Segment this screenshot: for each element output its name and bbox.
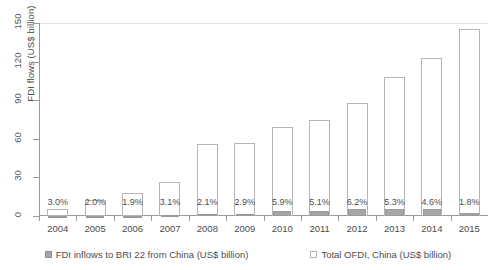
bar-bri-inflows	[161, 215, 179, 217]
y-tick-mark	[33, 62, 39, 63]
bar-bri-inflows	[86, 216, 104, 218]
legend-swatch-gray-icon	[45, 251, 52, 258]
x-tick-mark	[76, 216, 77, 221]
x-tick-mark	[338, 216, 339, 221]
x-tick-mark	[376, 216, 377, 221]
y-tick-label: 120	[12, 45, 23, 75]
bar-bri-inflows	[48, 216, 66, 218]
legend-swatch-white-icon	[310, 251, 317, 258]
chart-figure: FDI flows (US$ billion) 0306090120150 20…	[0, 0, 496, 270]
y-tick-label: 90	[12, 84, 23, 114]
bar-bri-inflows	[423, 209, 441, 216]
bar-bri-inflows	[460, 213, 478, 216]
x-tick-mark	[413, 216, 414, 221]
bar-bri-inflows	[273, 211, 291, 216]
y-tick-mark	[33, 139, 39, 140]
chart-legend: FDI inflows to BRI 22 from China (US$ bi…	[0, 249, 496, 260]
bar-total-ofdi	[459, 29, 480, 216]
legend-label-total: Total OFDI, China (US$ billion)	[321, 249, 451, 260]
y-tick-mark	[33, 23, 39, 24]
bar-bri-inflows	[385, 209, 403, 216]
y-tick-mark	[33, 100, 39, 101]
bar-total-ofdi	[384, 77, 405, 216]
legend-item-total: Total OFDI, China (US$ billion)	[310, 249, 451, 260]
y-tick-label: 60	[12, 122, 23, 152]
y-tick-label: 0	[12, 200, 23, 230]
bar-bri-inflows	[198, 214, 216, 216]
legend-item-bri: FDI inflows to BRI 22 from China (US$ bi…	[45, 249, 249, 260]
bar-bri-inflows	[123, 216, 141, 218]
y-axis-title: FDI flows (US$ billion)	[25, 0, 36, 139]
x-tick-mark	[264, 216, 265, 221]
bar-data-label: 1.8%	[446, 197, 492, 207]
bar-total-ofdi	[421, 58, 442, 216]
x-tick-mark	[114, 216, 115, 221]
x-tick-label: 2015	[446, 223, 492, 234]
y-tick-label: 30	[12, 161, 23, 191]
x-tick-mark	[451, 216, 452, 221]
bar-bri-inflows	[236, 214, 254, 216]
x-tick-mark	[226, 216, 227, 221]
x-tick-mark	[39, 216, 40, 221]
bar-bri-inflows	[348, 209, 366, 216]
bar-bri-inflows	[310, 211, 328, 216]
y-tick-mark	[33, 177, 39, 178]
y-tick-label: 150	[12, 7, 23, 37]
x-tick-mark	[151, 216, 152, 221]
legend-label-bri: FDI inflows to BRI 22 from China (US$ bi…	[56, 249, 249, 260]
x-tick-mark	[189, 216, 190, 221]
x-tick-mark	[301, 216, 302, 221]
